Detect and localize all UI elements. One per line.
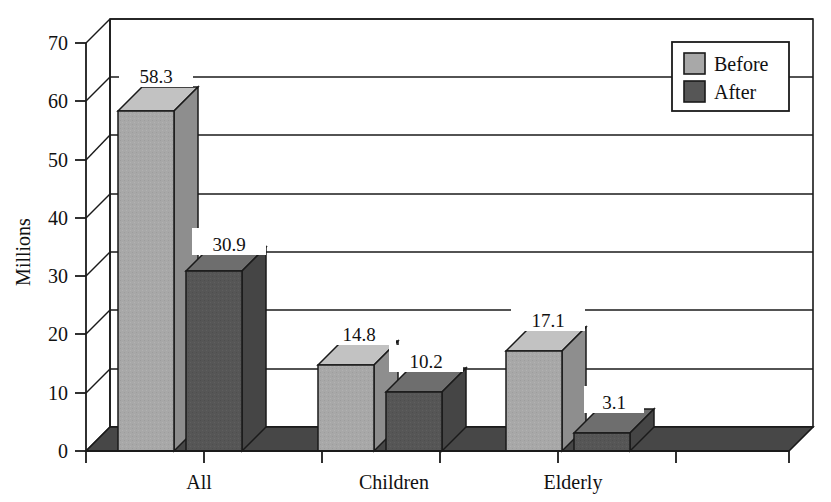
category-label-all: All [186,471,212,493]
bar-all-after [186,247,266,451]
value-label-children-before: 14.8 [342,324,375,345]
legend[interactable]: Before After [672,42,789,111]
legend-swatch-before [684,53,705,74]
category-label-elderly: Elderly [544,471,603,494]
y-tick-label-70: 70 [48,32,68,54]
y-tick-label-60: 60 [48,90,68,112]
bar-children-after [386,368,466,451]
y-tick-label-30: 30 [48,265,68,287]
legend-swatch-after [684,81,705,102]
value-label-all-after: 30.9 [212,234,245,255]
legend-label-after: After [714,81,757,103]
value-label-elderly-after: 3.1 [602,392,626,413]
bar-side-face [242,247,266,451]
value-label-children-after: 10.2 [409,351,442,372]
legend-item-after[interactable]: After [684,81,757,103]
y-axis-title: Millions [12,218,34,286]
category-label-children: Children [359,471,429,493]
bar-front-face [574,433,630,451]
y-tick-label-50: 50 [48,149,68,171]
bar-front-face [386,392,442,451]
bar-front-face [318,365,374,451]
value-label-elderly-before: 17.1 [531,310,564,331]
legend-item-before[interactable]: Before [684,53,769,75]
y-tick-label-20: 20 [48,323,68,345]
bar-front-face [186,271,242,451]
bar-front-face [506,351,562,451]
legend-label-before: Before [714,53,769,75]
y-tick-label-40: 40 [48,207,68,229]
y-tick-label-0: 0 [58,440,68,462]
y-tick-label-10: 10 [48,382,68,404]
bar-front-face [118,111,174,451]
chart-container: 70 60 50 40 30 20 10 0 Millions [0,0,831,502]
bar-chart-3d: 70 60 50 40 30 20 10 0 Millions [0,0,831,502]
value-label-all-before: 58.3 [139,66,172,87]
